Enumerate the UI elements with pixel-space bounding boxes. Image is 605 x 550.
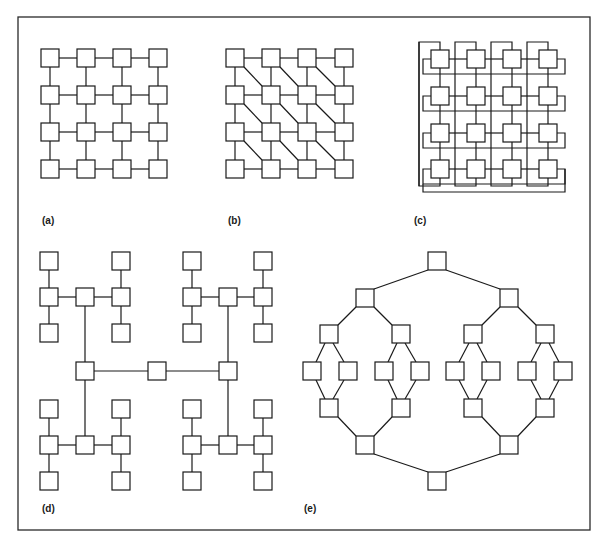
- processor-node: [77, 160, 95, 178]
- link: [446, 454, 500, 472]
- processor-node: [183, 252, 201, 270]
- processor-node: [113, 123, 131, 141]
- link: [280, 104, 298, 123]
- processor-node: [41, 86, 59, 104]
- processor-node: [112, 472, 130, 490]
- processor-node: [467, 160, 485, 178]
- processor-node: [298, 49, 316, 67]
- link: [333, 343, 344, 362]
- processor-node: [183, 288, 201, 306]
- link: [316, 104, 335, 123]
- link: [477, 343, 487, 362]
- processor-node: [76, 362, 94, 380]
- link: [482, 417, 500, 436]
- link: [531, 343, 541, 362]
- processor-node: [411, 362, 429, 380]
- processor-node: [539, 50, 557, 68]
- link: [405, 343, 416, 362]
- processor-node: [77, 86, 95, 104]
- processor-node: [539, 87, 557, 105]
- processor-node: [262, 86, 280, 104]
- link: [482, 307, 500, 325]
- processor-node: [40, 288, 58, 306]
- processor-node: [113, 86, 131, 104]
- processor-node: [226, 123, 244, 141]
- processor-node: [431, 160, 449, 178]
- link: [338, 307, 356, 325]
- link: [316, 141, 335, 160]
- link: [244, 67, 262, 86]
- processor-node: [149, 49, 167, 67]
- processor-node: [428, 472, 446, 490]
- panel-d-h-tree: [40, 252, 272, 490]
- processor-node: [428, 252, 446, 270]
- network-topology-figure: (a) (b) (c) (d) (e): [0, 0, 605, 550]
- processor-node: [254, 252, 272, 270]
- link: [518, 417, 536, 436]
- processor-node: [467, 50, 485, 68]
- link: [388, 343, 397, 362]
- link: [549, 380, 559, 399]
- processor-node: [262, 123, 280, 141]
- processor-node: [335, 86, 353, 104]
- processor-node: [76, 288, 94, 306]
- processor-node: [392, 325, 410, 343]
- processor-node: [219, 436, 237, 454]
- processor-node: [40, 436, 58, 454]
- link: [518, 307, 536, 325]
- processor-node: [112, 400, 130, 418]
- processor-node: [335, 123, 353, 141]
- processor-node: [226, 86, 244, 104]
- processor-node: [298, 160, 316, 178]
- processor-node: [503, 124, 521, 142]
- processor-node: [431, 50, 449, 68]
- processor-node: [113, 49, 131, 67]
- processor-node: [431, 124, 449, 142]
- link: [374, 270, 428, 289]
- processor-node: [446, 362, 464, 380]
- processor-node: [254, 472, 272, 490]
- processor-node: [392, 399, 410, 417]
- processor-node: [76, 436, 94, 454]
- processor-node: [226, 160, 244, 178]
- link: [459, 343, 469, 362]
- processor-node: [482, 362, 500, 380]
- link: [316, 380, 325, 399]
- processor-node: [539, 124, 557, 142]
- processor-node: [262, 49, 280, 67]
- processor-node: [375, 362, 393, 380]
- link: [531, 380, 541, 399]
- processor-node: [339, 362, 357, 380]
- processor-node: [41, 160, 59, 178]
- processor-node: [219, 288, 237, 306]
- processor-node: [254, 288, 272, 306]
- processor-node: [40, 324, 58, 342]
- processor-node: [503, 87, 521, 105]
- processor-node: [254, 436, 272, 454]
- link: [374, 307, 392, 325]
- panel-c-label: (c): [414, 215, 426, 226]
- link: [338, 417, 356, 436]
- processor-node: [503, 50, 521, 68]
- link: [316, 67, 335, 86]
- processor-node: [500, 289, 518, 307]
- processor-node: [112, 288, 130, 306]
- link: [316, 343, 325, 362]
- panel-a-mesh: [41, 49, 167, 178]
- processor-node: [149, 123, 167, 141]
- link: [459, 380, 469, 399]
- processor-node: [518, 362, 536, 380]
- processor-node: [356, 436, 374, 454]
- processor-node: [40, 252, 58, 270]
- processor-node: [320, 325, 338, 343]
- link: [446, 270, 500, 289]
- processor-node: [149, 86, 167, 104]
- processor-node: [303, 362, 321, 380]
- processor-node: [226, 49, 244, 67]
- processor-node: [335, 49, 353, 67]
- processor-node: [254, 324, 272, 342]
- processor-node: [112, 324, 130, 342]
- processor-node: [356, 289, 374, 307]
- processor-node: [113, 160, 131, 178]
- processor-node: [467, 124, 485, 142]
